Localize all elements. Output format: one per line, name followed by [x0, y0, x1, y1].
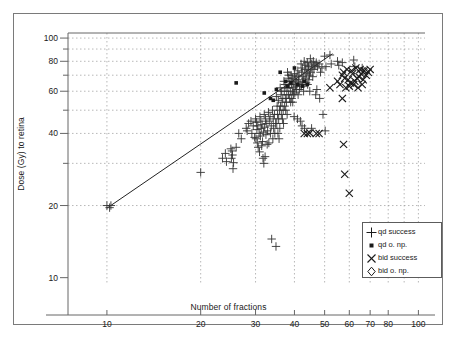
- legend-label-qd-success: qd success: [378, 225, 416, 238]
- scatter-plot: [0, 0, 457, 341]
- x-tick-label: 100: [403, 319, 433, 329]
- legend-label-bid-o-np: bid o. np.: [378, 264, 409, 277]
- legend-item-qd-success: qd success: [365, 225, 441, 238]
- diamond-icon: [365, 264, 378, 277]
- legend-item-bid-success: bid success: [365, 251, 441, 264]
- legend: qd success qd o. np. bid success bid o. …: [362, 222, 442, 278]
- y-tick-label: 100: [28, 33, 58, 43]
- series-qd-success: [103, 51, 367, 251]
- x-tick-label: 30: [241, 319, 271, 329]
- y-tick-label: 60: [28, 86, 58, 96]
- legend-item-bid-o-np: bid o. np.: [365, 264, 441, 277]
- legend-label-qd-o-np: qd o. np.: [378, 238, 407, 251]
- legend-label-bid-success: bid success: [378, 251, 417, 264]
- x-tick-label: 40: [279, 319, 309, 329]
- y-tick-label: 20: [28, 201, 58, 211]
- legend-item-qd-o-np: qd o. np.: [365, 238, 441, 251]
- plus-icon: [365, 225, 378, 238]
- y-tick-label: 10: [28, 273, 58, 283]
- x-tick-label: 10: [92, 319, 122, 329]
- cross-icon: [365, 251, 378, 264]
- x-tick-label: 20: [186, 319, 216, 329]
- x-tick-label: 80: [373, 319, 403, 329]
- x-axis-title: Number of fractions: [0, 302, 457, 312]
- y-axis-title: Dose (Gy) to retina: [16, 94, 26, 214]
- square-icon: [365, 238, 378, 251]
- y-tick-label: 40: [28, 128, 58, 138]
- y-tick-label: 80: [28, 56, 58, 66]
- figure: Number of fractions Dose (Gy) to retina …: [0, 0, 457, 341]
